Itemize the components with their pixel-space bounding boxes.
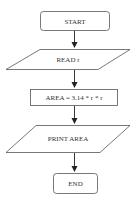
arrowhead-icon (72, 42, 78, 48)
arrowhead-icon (72, 82, 78, 88)
arrowhead-icon (72, 166, 78, 172)
print-node: PRINT AREA (6, 126, 130, 153)
flowchart: START READ r AREA = 3.14 * r * r PRINT A… (0, 0, 136, 203)
end-node: END (54, 174, 98, 194)
compute-node: AREA = 3.14 * r * r (31, 90, 118, 106)
compute-label: AREA = 3.14 * r * r (45, 94, 103, 102)
start-node: START (41, 12, 110, 31)
arrowhead-icon (72, 118, 78, 124)
read-node: READ r (6, 50, 130, 70)
read-label: READ r (56, 56, 80, 64)
print-label: PRINT AREA (48, 135, 89, 143)
start-label: START (64, 18, 86, 26)
end-label: END (68, 180, 82, 188)
